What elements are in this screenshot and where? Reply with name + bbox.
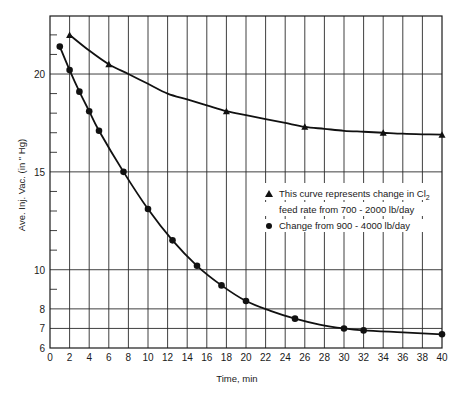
circle-data-point bbox=[57, 43, 64, 50]
x-tick-label: 34 bbox=[378, 352, 390, 363]
circle-data-point bbox=[341, 325, 348, 332]
y-tick-label: 15 bbox=[34, 167, 46, 178]
triangle-data-point bbox=[66, 31, 73, 38]
circle-marker-icon bbox=[266, 223, 272, 229]
x-tick-label: 18 bbox=[221, 352, 233, 363]
circle-data-point bbox=[243, 298, 250, 305]
x-tick-label: 28 bbox=[319, 352, 331, 363]
x-tick-label: 22 bbox=[260, 352, 272, 363]
x-tick-label: 2 bbox=[67, 352, 73, 363]
x-tick-label: 6 bbox=[106, 352, 112, 363]
circle-data-point bbox=[218, 282, 225, 289]
x-tick-label: 30 bbox=[338, 352, 350, 363]
chart: 0246810121416182022242628303234363840 20… bbox=[0, 0, 462, 396]
circle-data-point bbox=[66, 67, 73, 74]
x-tick-label: 10 bbox=[142, 352, 154, 363]
x-tick-label: 26 bbox=[299, 352, 311, 363]
circle-data-point bbox=[194, 263, 201, 270]
x-tick-label: 14 bbox=[182, 352, 194, 363]
x-tick-label: 38 bbox=[417, 352, 429, 363]
x-tick-label: 0 bbox=[47, 352, 53, 363]
x-tick-label: 40 bbox=[436, 352, 448, 363]
y-tick-label: 8 bbox=[39, 304, 45, 315]
x-tick-label: 16 bbox=[201, 352, 213, 363]
x-axis-title: Time, min bbox=[216, 373, 257, 384]
circle-data-point bbox=[96, 127, 103, 134]
x-tick-label: 12 bbox=[162, 352, 174, 363]
x-tick-label: 20 bbox=[240, 352, 252, 363]
x-tick-label: 8 bbox=[126, 352, 132, 363]
legend: This curve represents change in Cl2 feed… bbox=[265, 188, 430, 231]
axis-ticks bbox=[50, 35, 57, 289]
x-tick-label: 36 bbox=[397, 352, 409, 363]
legend-entry-triangle-line2: feed rate from 700 - 2000 lb/day bbox=[279, 204, 414, 215]
legend-entry-circle: Change from 900 - 4000 lb/day bbox=[279, 220, 410, 231]
series-triangle-line bbox=[70, 35, 442, 135]
y-tick-label: 10 bbox=[34, 265, 46, 276]
y-tick-label: 6 bbox=[39, 343, 45, 354]
x-tick-label: 32 bbox=[358, 352, 370, 363]
circle-data-point bbox=[145, 206, 152, 213]
circle-data-point bbox=[169, 237, 176, 244]
legend-line1-text: This curve represents change in Cl bbox=[279, 188, 426, 199]
x-tick-label: 24 bbox=[280, 352, 292, 363]
y-tick-label: 20 bbox=[34, 69, 46, 80]
y-tick-label: 7 bbox=[39, 323, 45, 334]
y-tick-labels: 201510876 bbox=[34, 69, 46, 354]
y-axis-title: Ave. Inj. Vac. (in " Hg) bbox=[16, 139, 27, 231]
circle-data-point bbox=[439, 331, 446, 338]
circle-data-point bbox=[292, 315, 299, 322]
circle-data-point bbox=[86, 108, 93, 115]
x-tick-label: 4 bbox=[86, 352, 92, 363]
circle-data-point bbox=[120, 169, 127, 176]
legend-line1-subscript: 2 bbox=[426, 194, 430, 201]
x-tick-labels: 0246810121416182022242628303234363840 bbox=[47, 352, 448, 363]
circle-data-point bbox=[360, 327, 367, 334]
circle-data-point bbox=[76, 88, 83, 95]
